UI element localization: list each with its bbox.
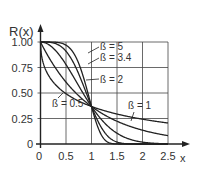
x-tick-label: 1 bbox=[88, 150, 94, 162]
x-axis-label: x bbox=[180, 152, 186, 164]
series-label: ß = 1 bbox=[128, 100, 152, 111]
series-label: ß = 3.4 bbox=[100, 52, 132, 63]
y-axis-label: R(x) bbox=[9, 24, 34, 39]
y-tick-label: 0.50 bbox=[12, 87, 33, 99]
y-tick-label: 0.25 bbox=[12, 113, 33, 125]
x-tick-label: 2.5 bbox=[160, 150, 175, 162]
series-label: ß = 2 bbox=[100, 74, 124, 85]
label-leader-line bbox=[88, 58, 99, 64]
x-tick-label: 2 bbox=[139, 150, 145, 162]
label-leader-line bbox=[131, 112, 134, 121]
label-leader-line bbox=[86, 79, 99, 80]
label-leader-line bbox=[88, 47, 99, 53]
x-axis-arrow-icon bbox=[182, 141, 190, 147]
series-label: ß = 5 bbox=[100, 41, 124, 52]
y-tick-label: 0 bbox=[27, 138, 33, 150]
x-tick-label: 0.5 bbox=[58, 150, 73, 162]
weibull-reliability-chart: 00.250.500.751.0000.511.522.5 R(x) x ß =… bbox=[0, 0, 199, 170]
series-label: ß = 0.5 bbox=[52, 98, 84, 109]
x-tick-label: 0 bbox=[36, 150, 42, 162]
y-tick-label: 0.75 bbox=[12, 62, 33, 74]
y-axis-arrow-icon bbox=[38, 24, 44, 32]
x-tick-label: 1.5 bbox=[109, 150, 124, 162]
